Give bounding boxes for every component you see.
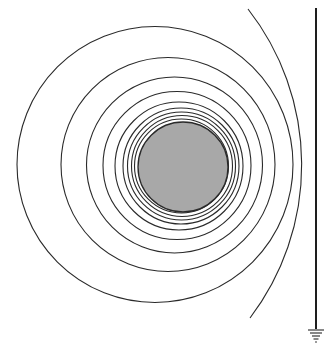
equipotential-diagram bbox=[0, 0, 335, 362]
charged-sphere bbox=[138, 122, 228, 212]
ground-icon bbox=[308, 330, 324, 342]
